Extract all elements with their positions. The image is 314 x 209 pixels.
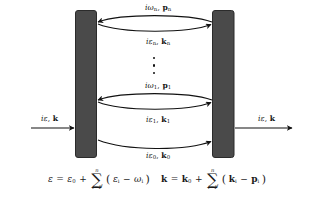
momentum-conservation-equation: k = k0 + n ∑ i=1 ( ki − pi ) (161, 168, 266, 191)
fermion-n-label: iεn, kn (146, 38, 170, 46)
feynman-diagram-figure: iωn, pn iεn, kn iω1, p1 iε1, k1 iε0, k0 … (0, 0, 314, 209)
right-vertex-block (213, 11, 235, 158)
momentum-close-paren: ) (262, 173, 266, 186)
ellipsis-dot (153, 64, 155, 66)
momentum-minus: − (240, 174, 248, 184)
momentum-equals: = (171, 174, 179, 184)
momentum-plus: + (195, 174, 203, 184)
fermion-0-label: iε0, k0 (146, 152, 170, 160)
energy-term-b: ωi (134, 174, 143, 184)
momentum-summation: n ∑ i=1 (207, 168, 218, 191)
momentum-sum-lower: i=1 (208, 185, 217, 190)
energy-conservation-equation: ε = ε0 + n ∑ i=1 ( εi − ωi ) (48, 168, 150, 191)
boson-1-line (98, 94, 212, 100)
incoming-line-label: iε, k (41, 115, 58, 123)
momentum-lhs: k (161, 174, 167, 184)
outgoing-line-label: iε, k (258, 115, 275, 123)
energy-first-term: ε0 (67, 174, 75, 184)
energy-equals: = (56, 174, 64, 184)
energy-lhs: ε (48, 174, 53, 184)
energy-minus: − (123, 174, 131, 184)
ellipsis-dot (153, 72, 155, 74)
momentum-term-a: ki (229, 174, 237, 184)
momentum-open-paren: ( (222, 173, 226, 186)
fermion-1-label: iε1, k1 (146, 116, 170, 124)
energy-open-paren: ( (106, 173, 110, 186)
fermion-1-line (98, 102, 211, 109)
energy-close-paren: ) (146, 173, 150, 186)
boson-n-line (98, 16, 212, 22)
left-vertex-block (76, 11, 97, 158)
energy-summation: n ∑ i=1 (91, 168, 102, 191)
energy-sum-lower: i=1 (92, 185, 101, 190)
fermion-n-line (98, 24, 211, 31)
fermion-0-line (98, 140, 211, 148)
momentum-first-term: k0 (182, 174, 192, 184)
vertical-ellipsis (153, 57, 155, 74)
boson-1-label: iω1, p1 (145, 82, 171, 90)
energy-plus: + (79, 174, 87, 184)
energy-term-a: εi (113, 174, 120, 184)
momentum-term-b: pi (251, 174, 259, 184)
boson-n-label: iωn, pn (145, 4, 171, 12)
conservation-equations: ε = ε0 + n ∑ i=1 ( εi − ωi ) k = k0 + n … (0, 168, 314, 191)
ellipsis-dot (153, 57, 155, 59)
